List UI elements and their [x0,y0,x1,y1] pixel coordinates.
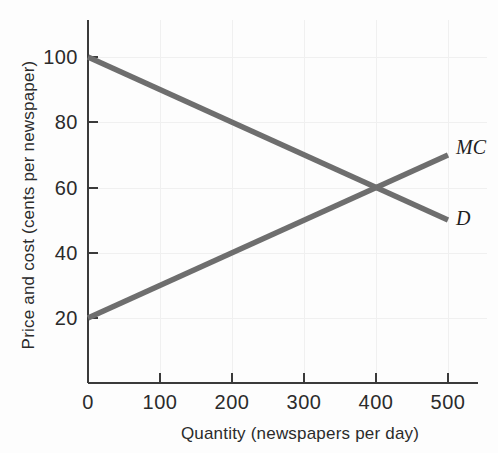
x-tick-label-300: 300 [287,391,322,413]
y-tick-label-60: 60 [55,177,78,199]
x-tick-label-400: 400 [359,391,394,413]
marginal-cost-curve-line [88,155,448,318]
x-tick-label-100: 100 [143,391,178,413]
x-axis-title: Quantity (newspapers per day) [181,424,419,443]
axes [88,20,478,383]
chart-canvas: 20 40 60 80 100 0 100 200 300 400 500 MC… [0,0,498,453]
grid-lines [88,20,487,383]
x-axis-ticks [160,373,448,383]
y-tick-label-20: 20 [55,307,78,329]
y-tick-label-80: 80 [55,111,78,133]
y-tick-labels: 20 40 60 80 100 [43,46,78,329]
y-tick-label-100: 100 [43,46,78,68]
x-tick-label-500: 500 [431,391,466,413]
y-axis-ticks [88,57,98,318]
x-tick-label-200: 200 [215,391,250,413]
x-tick-labels: 0 100 200 300 400 500 [82,391,465,413]
y-axis-title: Price and cost (cents per newspaper) [19,61,38,350]
demand-curve-label: D [455,207,471,229]
x-tick-label-0: 0 [82,391,94,413]
y-tick-label-40: 40 [55,242,78,264]
marginal-cost-curve-label: MC [455,136,487,158]
chart-figure: 20 40 60 80 100 0 100 200 300 400 500 MC… [0,0,498,453]
demand-curve-line [88,57,448,220]
